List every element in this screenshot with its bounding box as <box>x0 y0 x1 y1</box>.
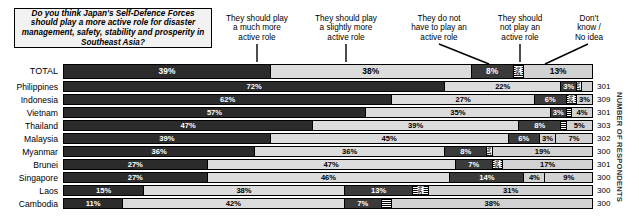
segment-no-need: 6% <box>508 134 540 143</box>
question-text: Do you think Japan's Self-Defence Forces… <box>18 9 208 47</box>
segment-much-more: 27% <box>64 173 207 182</box>
segment-no-need: 13% <box>344 186 413 195</box>
segment-slightly-more: 22% <box>444 82 560 91</box>
row-label: Vietnam <box>0 108 58 118</box>
segment-no-need: 3% <box>560 82 576 91</box>
stacked-bar: 36% 36% 8% 1% 19% <box>63 146 593 157</box>
survey-chart: Do you think Japan's Self-Defence Forces… <box>0 0 639 222</box>
segment-dont-know: 19% <box>492 147 592 156</box>
segment-slightly-more: 27% <box>391 95 534 104</box>
row-label: Singapore <box>0 173 58 183</box>
segment-much-more: 62% <box>64 95 391 104</box>
legend-slightly-more-line-2: a slightly more <box>303 23 389 32</box>
legend-slightly-more: They should play a slightly more active … <box>303 14 389 42</box>
segment-slightly-more: 38% <box>143 186 344 195</box>
row-label: Cambodia <box>0 199 58 209</box>
table-row: Brunei 27% 47% 7% 2% 17% 301 <box>63 158 593 171</box>
legend-should-not-line-2: not play an <box>484 23 556 32</box>
segment-no-need: 8% <box>518 121 560 130</box>
table-row: Laos 15% 38% 13% 3% 31% 300 <box>63 184 593 197</box>
segment-much-more: 11% <box>64 199 122 208</box>
stacked-bar: 72% 22% 3% 1% <box>63 81 593 92</box>
legend-much-more: They should play a much more active role <box>214 14 300 42</box>
segment-slightly-more: 35% <box>365 108 550 117</box>
table-row: Thailand 47% 39% 8% 5% 303 <box>63 119 593 132</box>
segment-slightly-more: 45% <box>270 134 508 143</box>
stacked-bar: 15% 38% 13% 3% 31% <box>63 185 593 196</box>
stacked-bar: 27% 46% 14% 4% 9% <box>63 172 593 183</box>
stacked-bar: 47% 39% 8% 5% <box>63 120 593 131</box>
segment-should-not-label: 2% <box>569 95 575 103</box>
segment-dont-know <box>581 82 592 91</box>
segment-dont-know: 31% <box>428 186 592 195</box>
segment-dont-know: 17% <box>502 160 592 169</box>
segment-slightly-more: 42% <box>122 199 344 208</box>
segment-no-need: 8% <box>444 147 486 156</box>
row-label: Indonesia <box>0 95 58 105</box>
legend-dont-know-line-1: Don't <box>562 14 616 23</box>
segment-slightly-more: 39% <box>312 121 518 130</box>
segment-no-need: 14% <box>449 173 523 182</box>
segment-much-more: 27% <box>64 160 207 169</box>
segment-should-not: 3% <box>412 186 428 195</box>
table-row: Malaysia 39% 45% 6% 3% 7% 302 <box>63 132 593 145</box>
table-row: Cambodia 11% 42% 7% 38% 300 <box>63 197 593 210</box>
segment-much-more: 39% <box>64 134 270 143</box>
segment-no-need: 3% <box>550 108 566 117</box>
legend-much-more-line-3: active role <box>214 33 300 42</box>
segment-dont-know: 9% <box>544 173 592 182</box>
segment-slightly-more: 36% <box>254 147 444 156</box>
segment-should-not: 2% <box>513 65 524 78</box>
segment-no-need: 8% <box>471 65 513 78</box>
stacked-bar: 11% 42% 7% 38% <box>63 198 593 209</box>
legend-much-more-line-2: a much more <box>214 23 300 32</box>
segment-much-more: 36% <box>64 147 254 156</box>
segment-no-need: 7% <box>344 199 381 208</box>
segment-slightly-more: 38% <box>270 65 471 78</box>
row-label: Laos <box>0 186 58 196</box>
segment-should-not <box>381 199 392 208</box>
row-label: Myanmar <box>0 147 58 157</box>
segment-should-not-label: 2% <box>495 160 501 168</box>
segment-much-more: 72% <box>64 82 444 91</box>
segment-dont-know: 3% <box>576 95 592 104</box>
row-label: Malaysia <box>0 134 58 144</box>
segment-should-not: 2% <box>566 95 577 104</box>
stacked-bar: 39% 45% 6% 3% 7% <box>63 133 593 144</box>
segment-slightly-more: 46% <box>207 173 450 182</box>
segment-should-not-label: 2% <box>516 67 522 75</box>
table-row: Indonesia 62% 27% 6% 2% 3% 309 <box>63 93 593 106</box>
segment-should-not: 2% <box>492 160 503 169</box>
stacked-bar: 39% 38% 8% 2% 13% <box>63 64 593 79</box>
table-row: Myanmar 36% 36% 8% 1% 19% 300 <box>63 145 593 158</box>
table-row: TOTAL 39% 38% 8% 2% 13% <box>63 62 593 80</box>
stacked-bar: 57% 35% 3% 4% <box>63 107 593 118</box>
stacked-bar: 62% 27% 6% 2% 3% <box>63 94 593 105</box>
segment-much-more: 57% <box>64 108 365 117</box>
table-row: Vietnam 57% 35% 3% 4% 301 <box>63 106 593 119</box>
segment-much-more: 15% <box>64 186 143 195</box>
segment-dont-know: 7% <box>555 134 592 143</box>
segment-dont-know: 4% <box>571 108 592 117</box>
legend-slightly-more-line-3: active role <box>303 33 389 42</box>
legend-should-not: They should not play an active role <box>484 14 556 42</box>
stacked-bar: 27% 47% 7% 2% 17% <box>63 159 593 170</box>
segment-much-more: 39% <box>64 65 270 78</box>
legend-should-not-line-3: active role <box>484 33 556 42</box>
row-label: Thailand <box>0 121 58 131</box>
table-row: Philippines 72% 22% 3% 1% 301 <box>63 80 593 93</box>
segment-much-more: 47% <box>64 121 312 130</box>
segment-no-need: 6% <box>534 95 566 104</box>
respondents-axis-title: NUMBER OF RESPONDENTS <box>613 74 625 220</box>
legend-slightly-more-line-1: They should play <box>303 14 389 23</box>
segment-no-need: 7% <box>455 160 492 169</box>
row-label: Philippines <box>0 82 58 92</box>
segment-should-not-label: 3% <box>418 186 424 194</box>
row-label: Brunei <box>0 160 58 170</box>
segment-should-not: 3% <box>539 134 555 143</box>
legend-dont-know: Don't know / No idea <box>562 14 616 42</box>
legend-no-need: They do not have to play an active role <box>400 14 478 42</box>
segment-slightly-more: 47% <box>207 160 455 169</box>
segment-dont-know: 5% <box>566 121 592 130</box>
row-label: TOTAL <box>0 66 58 76</box>
